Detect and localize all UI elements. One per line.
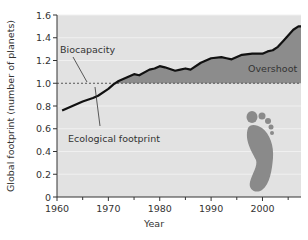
x-axis-label: Year — [143, 218, 164, 229]
y-axis-ticks: 00.20.40.60.81.01.21.41.6 — [36, 10, 57, 203]
y-tick-label: 0.4 — [36, 146, 51, 157]
x-tick-label: 1960 — [45, 203, 69, 214]
y-tick-label: 1.4 — [36, 32, 51, 43]
y-tick-label: 0.2 — [36, 169, 51, 180]
overshoot-label: Overshoot — [248, 63, 297, 74]
footprint-chart: Biocapacity Ecological footprint Oversho… — [0, 0, 308, 240]
y-tick-label: 0 — [45, 192, 51, 203]
x-tick-label: 1980 — [148, 203, 172, 214]
x-axis-ticks: 19601970198019902000 — [45, 197, 288, 214]
y-tick-label: 0.8 — [36, 101, 51, 112]
y-axis-label: Global footprint (number of planets) — [5, 20, 16, 192]
biocapacity-label: Biocapacity — [60, 44, 115, 55]
y-tick-label: 1.2 — [36, 55, 51, 66]
ecological-footprint-label: Ecological footprint — [68, 133, 160, 144]
y-tick-label: 0.6 — [36, 123, 51, 134]
y-tick-label: 1.0 — [36, 78, 51, 89]
x-tick-label: 2000 — [250, 203, 274, 214]
x-tick-label: 1990 — [199, 203, 223, 214]
x-tick-label: 1970 — [96, 203, 120, 214]
y-tick-label: 1.6 — [36, 10, 51, 21]
